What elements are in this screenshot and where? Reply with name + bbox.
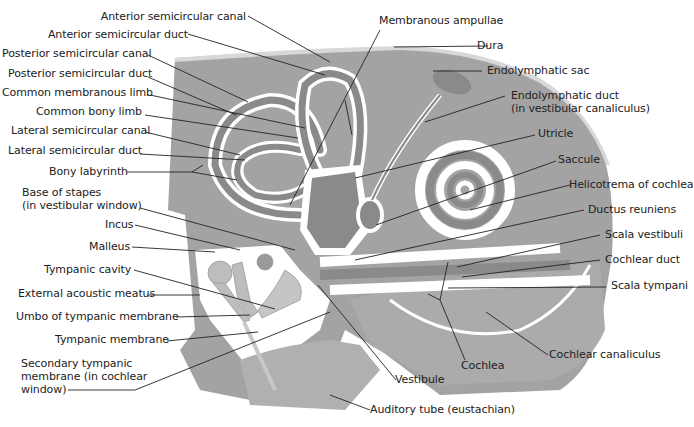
label-umbo: Umbo of tympanic membrane [16,311,179,323]
label-tympanic-membrane: Tympanic membrane [55,334,169,346]
label-secondary-tympanic-membrane: Secondary tympanic [21,358,132,370]
label-cochlear-duct: Cochlear duct [605,254,680,266]
label-endolymphatic-duct: Endolymphatic duct [511,90,619,102]
inner-ear-diagram: Anterior semicircular canal Anterior sem… [0,0,694,427]
label-base-of-stapes: Base of stapes [22,187,101,199]
label-saccule: Saccule [558,154,600,166]
label-base-of-stapes-line2: (in vestibular window) [22,200,142,212]
label-lateral-semicircular-canal: Lateral semicircular canal [11,125,150,137]
label-ductus-reuniens: Ductus reuniens [588,204,676,216]
label-endolymphatic-sac: Endolymphatic sac [487,65,589,77]
label-secondary-tympanic-membrane-line2: membrane (in cochlear [21,371,147,383]
label-anterior-semicircular-duct: Anterior semicircular duct [48,29,188,41]
label-posterior-semicircular-duct: Posterior semicircular duct [8,68,152,80]
label-anterior-semicircular-canal: Anterior semicircular canal [101,11,246,23]
label-scala-vestibuli: Scala vestibuli [605,229,683,241]
label-external-acoustic-meatus: External acoustic meatus [18,288,155,300]
label-common-membranous-limb: Common membranous limb [2,87,153,99]
label-bony-labyrinth: Bony labyrinth [49,166,128,178]
malleus-head [208,261,232,285]
label-auditory-tube: Auditory tube (eustachian) [370,404,515,416]
label-cochlea: Cochlea [461,360,504,372]
label-utricle: Utricle [538,128,573,140]
label-secondary-tympanic-membrane-line3: window) [21,384,66,396]
label-incus: Incus [105,219,133,231]
label-membranous-ampullae: Membranous ampullae [379,15,503,27]
label-posterior-semicircular-canal: Posterior semicircular canal [2,48,151,60]
label-dura: Dura [477,40,503,52]
label-helicotrema: Helicotrema of cochlea [569,179,694,191]
label-malleus: Malleus [89,241,130,253]
label-scala-tympani: Scala tympani [611,280,688,292]
label-common-bony-limb: Common bony limb [36,106,142,118]
label-cochlear-canaliculus: Cochlear canaliculus [549,349,660,361]
label-vestibule: Vestibule [395,374,444,386]
label-tympanic-cavity: Tympanic cavity [44,264,131,276]
label-endolymphatic-duct-line2: (in vestibular canaliculus) [511,103,650,115]
label-lateral-semicircular-duct: Lateral semicircular duct [8,145,142,157]
